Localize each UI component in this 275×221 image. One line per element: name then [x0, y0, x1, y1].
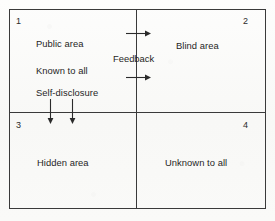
label-hidden-area: Hidden area [37, 158, 89, 167]
label-feedback: Feedback [113, 54, 154, 63]
quadrant-number-1: 1 [16, 17, 21, 26]
johari-window-diagram: 1 2 3 4 Public area Known to all Self-di… [0, 0, 275, 221]
label-public-area: Public area [36, 39, 83, 48]
label-known-to-all: Known to all [36, 66, 88, 75]
label-self-disclosure: Self-disclosure [36, 88, 98, 97]
vertical-divider [136, 9, 137, 209]
quadrant-number-4: 4 [243, 121, 248, 130]
quadrant-number-3: 3 [16, 121, 21, 130]
quadrant-number-2: 2 [243, 17, 248, 26]
horizontal-divider [9, 112, 266, 113]
label-blind-area: Blind area [176, 41, 219, 50]
label-unknown-to-all: Unknown to all [165, 158, 227, 167]
